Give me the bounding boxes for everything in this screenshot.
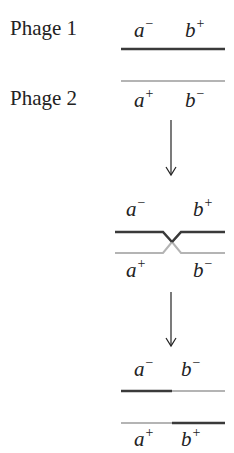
arrow-down-icon — [166, 120, 176, 175]
arrow-down-icon — [166, 292, 176, 346]
crossover-light-chromosome — [115, 232, 225, 253]
crossover-dark-chromosome — [115, 232, 172, 242]
diagram-lines — [0, 0, 234, 453]
